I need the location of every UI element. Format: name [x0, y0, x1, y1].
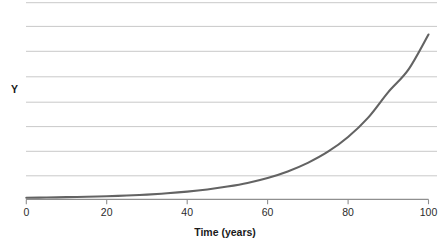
y-axis-title: Y: [11, 83, 18, 95]
exponential-growth-chart: 0 20 40 60 80 100 Time (years) Y: [0, 0, 447, 250]
x-tick-label-20: 20: [101, 206, 113, 218]
x-tick-label-100: 100: [420, 206, 438, 218]
x-tick-label-60: 60: [262, 206, 274, 218]
x-tick-label-80: 80: [342, 206, 354, 218]
x-axis-title: Time (years): [194, 226, 256, 238]
x-tick-label-40: 40: [181, 206, 193, 218]
chart-background: [0, 0, 447, 250]
x-tick-label-0: 0: [23, 206, 29, 218]
chart-figure: 0 20 40 60 80 100 Time (years) Y: [0, 0, 447, 250]
